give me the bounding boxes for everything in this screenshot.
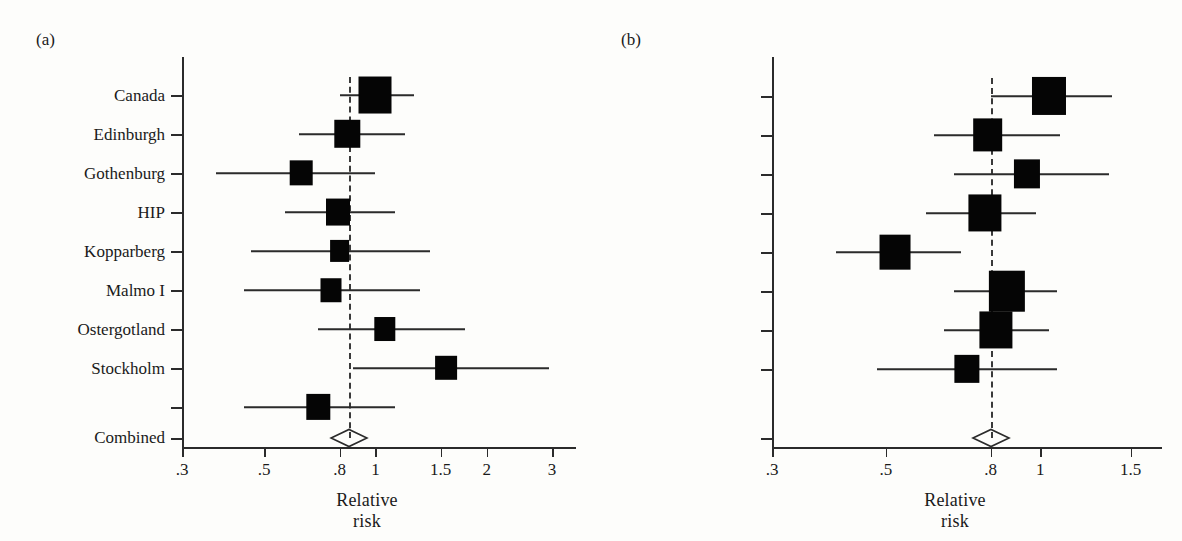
y-axis-tick [761,369,772,371]
study-effect-marker [374,317,395,341]
y-axis-tick [171,134,182,136]
y-axis-tick [761,291,772,293]
combined-effect-diamond [329,428,369,449]
study-label: Gothenburg [84,164,165,184]
x-axis-title: Relative risk [924,490,986,532]
y-axis-line [182,57,184,447]
study-label: Malmo I [106,281,165,301]
study-effect-marker [1032,77,1066,115]
x-axis-line [182,447,576,449]
panel-b-label: (b) [621,30,641,50]
x-axis-tick-label: .5 [258,460,271,480]
x-axis-tick-label: 1.5 [430,460,451,480]
study-label: Edinburgh [94,125,165,145]
forest-plot-panel-b: (b) CanadaEdinburghGothenburgHIPKopparbe… [591,0,1182,541]
study-effect-marker [335,120,360,148]
study-effect-marker [435,356,457,380]
study-effect-marker [359,77,392,114]
study-effect-marker [306,394,329,420]
y-axis-tick [761,330,772,332]
x-axis-tick [1040,448,1042,457]
study-effect-marker [989,271,1025,312]
x-axis-tick-label: .3 [766,460,779,480]
y-axis-tick [761,252,772,254]
study-label: Stockholm [91,359,165,379]
y-axis-tick [171,212,182,214]
x-axis-tick [552,448,554,457]
y-axis-tick-combined [761,438,772,440]
x-axis-tick-label: .5 [879,460,892,480]
x-axis-tick [487,448,489,457]
x-axis-tick [340,448,342,457]
study-label: HIP [138,203,165,223]
x-axis-tick [441,448,443,457]
combined-effect-diamond [971,428,1011,449]
x-axis-tick-label: .8 [984,460,997,480]
study-label: Canada [114,86,165,106]
y-axis-tick [171,251,182,253]
study-effect-marker [954,355,979,383]
y-axis-tick-combined [171,438,182,440]
study-effect-marker [1013,159,1039,188]
study-effect-marker [326,199,350,226]
x-axis-tick [886,448,888,457]
y-axis-tick [761,135,772,137]
y-axis-tick [171,407,182,409]
x-axis-tick-label: 2 [483,460,492,480]
y-axis-tick [171,95,182,97]
study-effect-marker [879,235,910,270]
x-axis-tick-label: .8 [333,460,346,480]
x-axis-tick-label: 1 [1036,460,1045,480]
x-axis-tick-label: 1 [371,460,380,480]
x-axis-tick [264,448,266,457]
y-axis-tick [171,368,182,370]
y-axis-tick [171,290,182,292]
study-effect-marker [973,118,1003,151]
study-effect-marker [290,160,313,185]
study-effect-marker [968,194,1001,231]
y-axis-tick [761,174,772,176]
panel-a-label: (a) [36,30,55,50]
study-label: Kopparberg [84,242,165,262]
combined-label: Combined [94,428,165,448]
study-effect-marker [330,240,350,262]
forest-plot-panel-a: (a) CanadaEdinburghGothenburgHIPKopparbe… [0,0,591,541]
y-axis-tick [171,173,182,175]
x-axis-tick-label: .3 [176,460,189,480]
y-axis-tick [171,329,182,331]
x-axis-tick [991,448,993,457]
y-axis-line [772,57,774,447]
x-axis-line [772,447,1162,449]
x-axis-tick [772,448,774,457]
x-axis-tick-label: 3 [548,460,557,480]
x-axis-tick [182,448,184,457]
x-axis-tick-label: 1.5 [1120,460,1141,480]
study-label: Ostergotland [77,320,165,340]
x-axis-tick [1131,448,1133,457]
x-axis-title: Relative risk [336,490,398,532]
study-effect-marker [980,311,1013,348]
y-axis-tick [761,96,772,98]
y-axis-tick [761,213,772,215]
study-effect-marker [321,278,342,302]
x-axis-tick [375,448,377,457]
